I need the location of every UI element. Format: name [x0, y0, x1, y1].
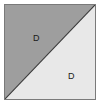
- split-square-figure: D D: [4, 4, 96, 100]
- diagram-canvas: D D: [0, 0, 100, 107]
- upper-left-region-label: D: [33, 34, 40, 43]
- square-shape-graphic: [5, 5, 95, 99]
- lower-right-region-label: D: [68, 72, 75, 81]
